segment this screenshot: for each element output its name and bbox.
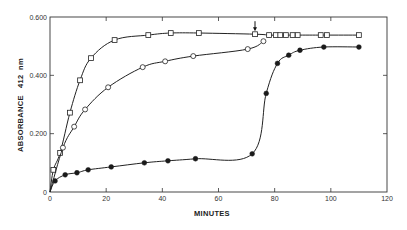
data-point [140,65,145,70]
data-point [196,31,201,36]
data-point [53,179,58,184]
data-point [298,48,303,53]
data-point [51,167,56,172]
x-tick-label: 20 [102,195,110,202]
data-point [286,53,291,58]
data-point [146,33,151,38]
data-point [63,172,68,177]
data-point [318,33,323,38]
data-point [250,151,255,156]
series-circle-filled [50,45,361,192]
series-circle-open [50,39,266,192]
y-tick-label: 0 [43,189,47,196]
data-point [78,78,83,83]
data-point [168,31,173,36]
x-tick-label: 0 [48,195,52,202]
plot-frame [50,17,387,192]
data-point [83,107,88,112]
data-point [163,59,168,64]
data-point [278,33,283,38]
data-point [321,45,326,50]
x-tick-label: 60 [215,195,223,202]
x-axis-title: MINUTES [194,209,230,218]
y-axis: 00.2000.4000.600 [29,14,387,196]
data-point [68,110,73,115]
data-point [86,167,91,172]
data-point [261,39,266,44]
data-point [267,33,272,38]
y-tick-label: 0.400 [29,72,47,79]
x-tick-label: 80 [271,195,279,202]
arrow-down-icon [253,27,257,31]
x-tick-label: 40 [158,195,166,202]
data-point [264,91,269,96]
data-point [290,33,295,38]
data-point [193,156,198,161]
data-point [284,33,289,38]
x-axis: 020406080100120 [48,17,393,202]
series-line [50,33,359,192]
data-point [112,38,117,43]
data-point [273,33,278,38]
series-layer [50,31,361,192]
data-point [142,160,147,165]
data-point [245,47,250,52]
data-point [191,54,196,59]
x-tick-label: 100 [325,195,337,202]
data-point [106,85,111,90]
y-axis-title: ABSORBANCE 412 nm [16,58,25,152]
data-point [109,165,114,170]
data-point [357,45,362,50]
series-line [50,47,359,192]
data-point [325,33,330,38]
data-point [295,33,300,38]
data-point [357,33,362,38]
y-tick-label: 0.200 [29,130,47,137]
annotation-layer [253,21,257,31]
data-point [60,145,65,150]
data-point [275,61,280,66]
y-tick-label: 0.600 [29,14,47,21]
data-point [166,158,171,163]
data-point [72,124,77,129]
x-tick-label: 120 [381,195,393,202]
data-point [75,170,80,175]
series-line [50,41,263,192]
data-point [253,32,258,37]
data-point [89,56,94,61]
absorbance-chart: 020406080100120 00.2000.4000.600 MINUTES… [0,0,407,230]
